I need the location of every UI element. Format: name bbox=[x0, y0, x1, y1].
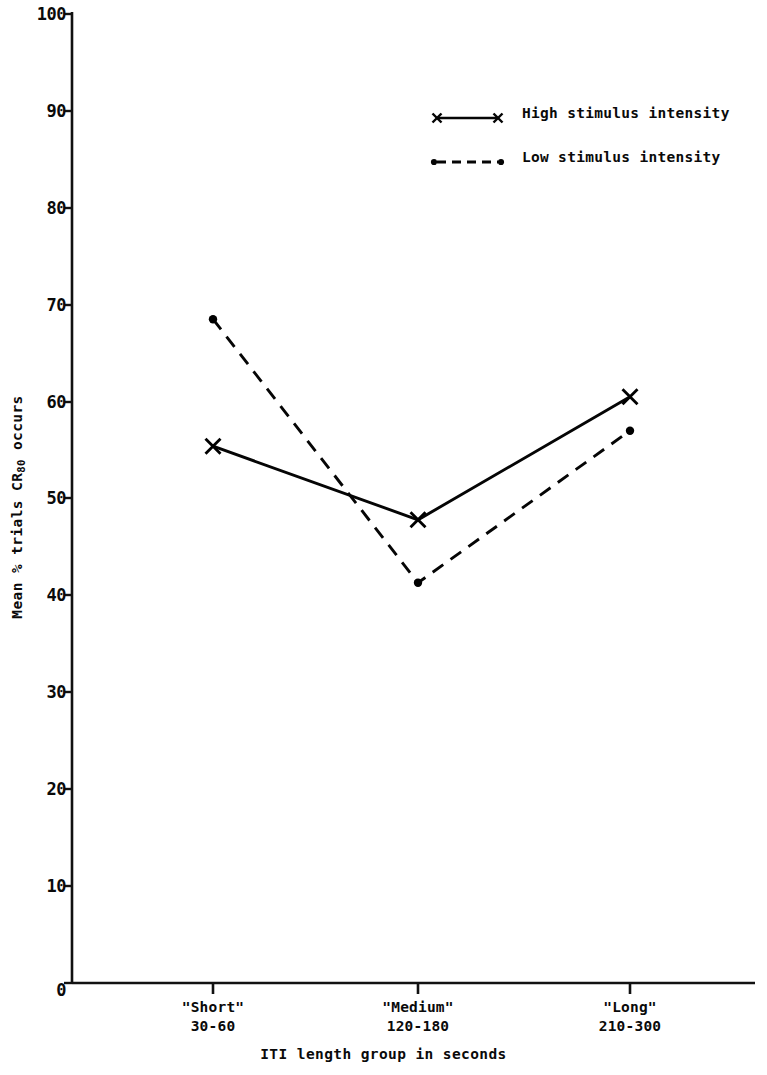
series-low-line bbox=[213, 319, 630, 583]
x-tick-label-range: 30-60 bbox=[123, 1017, 303, 1036]
x-axis-ticks bbox=[213, 983, 630, 994]
y-tick-label: 80 bbox=[14, 198, 66, 218]
series-high-line bbox=[213, 397, 630, 520]
solid-x-line-sample-icon bbox=[430, 110, 505, 126]
y-tick-label: 30 bbox=[14, 682, 66, 702]
x-tick-label-name: "Medium" bbox=[382, 999, 453, 1015]
series-high-stimulus-intensity bbox=[206, 389, 638, 527]
x-axis-title: ITI length group in seconds bbox=[0, 1046, 767, 1062]
x-tick-label-name: "Long" bbox=[603, 999, 657, 1015]
x-tick-label-name: "Short" bbox=[182, 999, 245, 1015]
series-low-marker-dot-icon bbox=[209, 315, 217, 323]
series-high-markers bbox=[206, 389, 638, 527]
y-axis-title-subscript: 80 bbox=[15, 459, 27, 472]
series-low-markers bbox=[209, 315, 634, 587]
series-low-marker-dot-icon bbox=[626, 427, 634, 435]
x-tick-group-long: "Long" 210-300 bbox=[540, 998, 720, 1036]
series-low-stimulus-intensity bbox=[209, 315, 634, 587]
y-tick-label: 20 bbox=[14, 779, 66, 799]
x-tick-label-range: 120-180 bbox=[328, 1017, 508, 1036]
y-axis-title-tail: occurs bbox=[9, 395, 25, 459]
x-tick-label-range: 210-300 bbox=[540, 1017, 720, 1036]
legend-label-low-stimulus-intensity: Low stimulus intensity bbox=[522, 149, 721, 165]
dashed-dot-line-sample-icon bbox=[430, 154, 505, 170]
y-tick-label: 100 bbox=[14, 4, 66, 24]
legend-entry-high-stimulus-intensity: High stimulus intensity bbox=[430, 102, 760, 146]
y-axis-title-main: Mean % trials CR bbox=[9, 473, 25, 619]
y-tick-label: 0 bbox=[14, 980, 66, 1000]
x-tick-group-short: "Short" 30-60 bbox=[123, 998, 303, 1036]
y-tick-label: 90 bbox=[14, 101, 66, 121]
line-chart-figure: 100 90 80 70 60 50 40 30 20 10 0 Mean % … bbox=[0, 0, 767, 1075]
x-tick-group-medium: "Medium" 120-180 bbox=[328, 998, 508, 1036]
chart-legend: High stimulus intensity Low stimulus int… bbox=[430, 102, 760, 190]
y-tick-label: 70 bbox=[14, 295, 66, 315]
legend-entry-low-stimulus-intensity: Low stimulus intensity bbox=[430, 146, 760, 190]
series-low-marker-dot-icon bbox=[414, 579, 422, 587]
y-axis-title: Mean % trials CR80 occurs bbox=[9, 395, 25, 618]
y-tick-label: 10 bbox=[14, 876, 66, 896]
legend-label-high-stimulus-intensity: High stimulus intensity bbox=[522, 105, 730, 121]
